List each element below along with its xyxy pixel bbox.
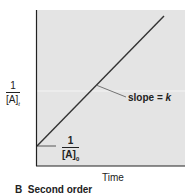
x-axis-label: Time xyxy=(102,173,124,183)
plot-background xyxy=(37,10,185,166)
panel-caption: B Second order xyxy=(15,185,92,194)
slope-label: slope = k xyxy=(128,93,171,103)
y-axis-label: 1 [A]t xyxy=(6,80,20,107)
intercept-label: 1 [A]0 xyxy=(62,135,79,162)
